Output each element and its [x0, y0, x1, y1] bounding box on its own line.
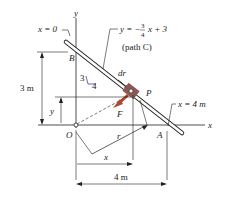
label-y-dim: y: [49, 106, 54, 116]
equation-den: 4: [141, 31, 145, 39]
equation-num: 3: [141, 22, 145, 30]
equation-lhs: y = −: [119, 24, 141, 34]
label-f: F: [116, 109, 123, 119]
label-b: B: [69, 53, 75, 63]
label-x0: x = 0: [37, 24, 58, 34]
label-p: P: [145, 88, 152, 98]
origin-o: [74, 123, 78, 127]
label-x4: x = 4 m: [177, 99, 206, 109]
handwritten-3: 3: [80, 73, 85, 83]
label-dr: dr: [118, 68, 127, 78]
path-label: (path C): [122, 42, 152, 52]
label-y-axis: y: [73, 8, 78, 18]
label-a: A: [156, 130, 163, 140]
diagram-canvas: 3 4 x = 0 y x y = − 3 4 x + 3 (path C) B…: [0, 0, 225, 201]
label-4m: 4 m: [114, 172, 128, 182]
label-3m: 3 m: [20, 83, 34, 93]
label-o: O: [66, 130, 73, 140]
label-x-dim: x: [103, 152, 108, 162]
label-r: r: [117, 131, 121, 141]
rod: [66, 42, 182, 133]
label-x-axis: x: [207, 120, 212, 130]
handwritten-4: 4: [92, 81, 97, 91]
equation-rhs: x + 3: [147, 24, 168, 34]
